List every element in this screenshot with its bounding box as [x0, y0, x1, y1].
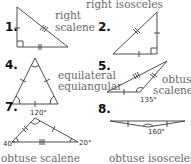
triangle-2: [113, 12, 160, 57]
classification-label: right isosceles: [86, 0, 163, 10]
triangle-4: [12, 58, 58, 107]
angle-label: 135°: [140, 97, 157, 104]
problem-number: 1.: [5, 21, 18, 33]
classification-label: scalene: [153, 85, 191, 96]
triangle-7: [12, 118, 78, 145]
angle-label: 40°: [3, 141, 15, 148]
problem-number: 7.: [5, 101, 18, 113]
triangle-8: [110, 121, 185, 127]
angle-label: 20°: [79, 140, 91, 147]
angle-label: 160°: [148, 129, 165, 136]
problem-number: 2.: [98, 21, 111, 33]
classification-label: right: [55, 10, 81, 21]
classification-label: equilateral: [58, 70, 116, 81]
right-angle-mark-icon: [17, 41, 23, 47]
angle-label: 120°: [30, 110, 47, 117]
classification-label: obtuse isosceles: [109, 153, 191, 164]
triangle-classification-diagram: 1. 2. 4. 5. 7. 8. right scalene right is…: [0, 0, 191, 164]
classification-label: obtuse: [162, 74, 191, 85]
classification-label: obtuse scalene: [1, 153, 80, 164]
classification-label: equiangular: [58, 81, 122, 92]
problem-number: 8.: [98, 103, 111, 115]
classification-label: scalene: [55, 22, 95, 33]
problem-number: 4.: [5, 59, 18, 71]
right-angle-mark-icon: [151, 48, 157, 54]
